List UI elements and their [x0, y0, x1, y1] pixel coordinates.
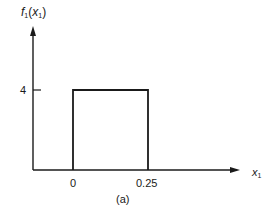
y-tick-label-4: 4 [20, 84, 26, 96]
x-axis-label: x1 [252, 166, 261, 182]
y-axis-arrow-icon [30, 26, 36, 36]
density-pulse [73, 90, 148, 170]
x-tick-label-0: 0 [70, 177, 76, 189]
x-axis-arrow-icon [230, 167, 240, 173]
x-label-x-sub: 1 [258, 172, 262, 179]
figure-caption: (a) [116, 193, 129, 205]
x-tick-label-0-25: 0.25 [136, 177, 157, 189]
y-axis-label: f1(x1) [21, 6, 46, 22]
y-label-paren-close: ) [42, 5, 46, 19]
